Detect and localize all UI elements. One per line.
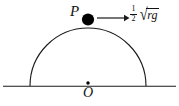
physics-diagram: P O 1 2 √ rg — [0, 0, 179, 106]
velocity-expression: 1 2 √ rg — [130, 5, 159, 24]
fraction-numerator: 1 — [131, 5, 137, 13]
radical-sign-icon: √ — [140, 7, 148, 22]
square-root-group: √ rg — [139, 7, 159, 22]
radicand-text: rg — [146, 8, 158, 22]
fraction-denominator: 2 — [131, 15, 137, 23]
particle-dot — [82, 13, 94, 25]
particle-label: P — [70, 4, 79, 19]
one-half-fraction: 1 2 — [130, 5, 137, 24]
velocity-arrow — [97, 15, 130, 21]
center-label: O — [83, 86, 93, 100]
dome-arc — [30, 28, 146, 86]
